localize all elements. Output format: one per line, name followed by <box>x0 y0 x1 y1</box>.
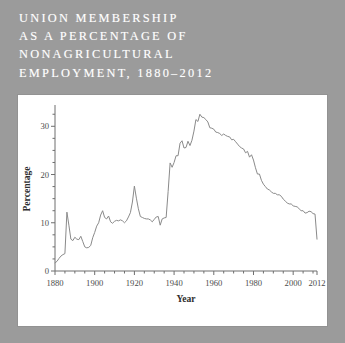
x-tick-label: 1960 <box>205 278 222 288</box>
y-axis-tick-labels: 0102030 <box>40 121 49 276</box>
x-tick-label: 1920 <box>126 278 143 288</box>
x-axis-major-ticks <box>55 271 317 275</box>
title-line-2: AS A PERCENTAGE OF <box>19 27 319 45</box>
y-tick-label: 20 <box>40 170 49 180</box>
title-line-1: UNION MEMBERSHIP <box>19 9 319 27</box>
x-axis-tick-labels: 18801900192019401960198020002012 <box>46 278 325 288</box>
x-tick-label: 1900 <box>86 278 103 288</box>
figure-container: UNION MEMBERSHIP AS A PERCENTAGE OF NONA… <box>0 0 345 343</box>
x-axis-title: Year <box>176 293 196 304</box>
line-chart: 0102030 18801900192019401960198020002012… <box>18 95 327 326</box>
figure-title: UNION MEMBERSHIP AS A PERCENTAGE OF NONA… <box>19 9 319 82</box>
y-tick-label: 30 <box>40 121 49 131</box>
union-membership-line <box>55 114 317 263</box>
title-line-4: EMPLOYMENT, 1880–2012 <box>19 64 319 82</box>
x-tick-label: 2012 <box>308 278 325 288</box>
y-tick-label: 0 <box>45 266 49 276</box>
x-tick-label: 1940 <box>165 278 182 288</box>
chart-panel: 0102030 18801900192019401960198020002012… <box>18 95 327 326</box>
x-tick-label: 1980 <box>245 278 262 288</box>
y-axis-title: Percentage <box>21 166 32 212</box>
y-tick-label: 10 <box>40 218 49 228</box>
title-line-3: NONAGRICULTURAL <box>19 45 319 63</box>
x-tick-label: 2000 <box>285 278 302 288</box>
x-tick-label: 1880 <box>46 278 63 288</box>
